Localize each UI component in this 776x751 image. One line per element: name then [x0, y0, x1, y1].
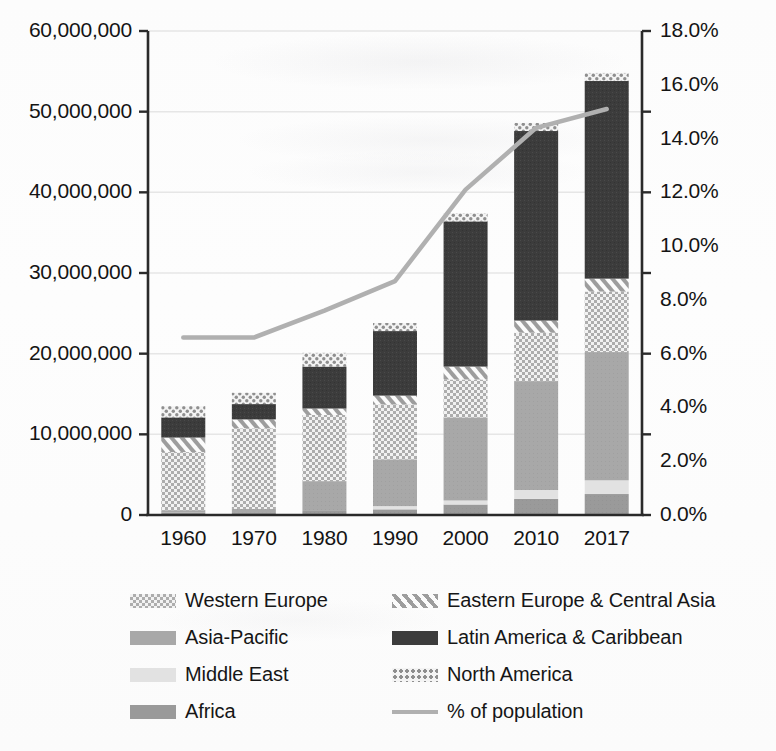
bar-segment-middle-east	[444, 500, 488, 504]
bar-1960	[161, 406, 205, 515]
legend-swatch-solid-gray-icon	[130, 631, 176, 645]
bar-segment-north-america	[373, 323, 417, 331]
legend-item-middle-east[interactable]: Middle East	[130, 663, 392, 686]
y2-axis-tick-label: 8.0%	[660, 287, 707, 311]
legend-label: North America	[447, 663, 572, 686]
bar-1970	[232, 393, 276, 515]
bar-segment-asia-pacific	[161, 510, 205, 512]
bar-segment-western-europe	[232, 428, 276, 509]
bar-segment-eastern-europe-central-asia	[161, 438, 205, 453]
x-axis-tick-label-2017: 2017	[562, 526, 652, 550]
y2-axis-tick-label: 14.0%	[660, 126, 719, 150]
bar-segment-north-america	[585, 73, 629, 81]
bar-segment-eastern-europe-central-asia	[444, 367, 488, 380]
y2-axis-tick-label: 0.0%	[660, 502, 707, 526]
legend-label: Middle East	[185, 663, 288, 686]
bar-segment-latin-america-caribbean	[373, 331, 417, 396]
bar-segment-latin-america-caribbean	[444, 221, 488, 366]
bar-segment-western-europe	[161, 452, 205, 510]
bar-segment-middle-east	[585, 480, 629, 494]
bar-segment-north-america	[232, 393, 276, 404]
legend-item-africa[interactable]: Africa	[130, 700, 392, 723]
bar-segment-eastern-europe-central-asia	[373, 396, 417, 405]
bar-segment-asia-pacific	[232, 509, 276, 512]
bar-segment-eastern-europe-central-asia	[585, 279, 629, 292]
y2-axis-tick-label: 10.0%	[660, 233, 719, 257]
bar-2000	[444, 213, 488, 515]
bar-1990	[373, 323, 417, 515]
legend-swatch-diagonal-stripe-icon	[392, 594, 438, 608]
bar-segment-western-europe	[444, 379, 488, 417]
bar-segment-eastern-europe-central-asia	[302, 409, 346, 415]
legend-swatch-solid-medium-gray-icon	[130, 705, 176, 719]
y-axis-tick-label: 60,000,000	[0, 18, 132, 42]
y2-axis-tick-label: 18.0%	[660, 18, 719, 42]
y2-axis-tick-label: 2.0%	[660, 448, 707, 472]
bar-segment-western-europe	[585, 292, 629, 353]
bar-segment-latin-america-caribbean	[161, 417, 205, 437]
bar-segment-middle-east	[373, 506, 417, 509]
legend-item-of-population[interactable]: % of population	[392, 700, 770, 723]
bar-segment-north-america	[302, 353, 346, 367]
legend-swatch-dotted-icon	[392, 668, 438, 682]
bar-series-group	[161, 73, 628, 515]
bar-1980	[302, 353, 346, 515]
legend-item-western-europe[interactable]: Western Europe	[130, 589, 392, 612]
bar-segment-africa	[444, 505, 488, 515]
bar-segment-africa	[514, 499, 558, 515]
legend-item-latin-america-caribbean[interactable]: Latin America & Caribbean	[392, 626, 770, 649]
bar-segment-asia-pacific	[302, 481, 346, 511]
legend-swatch-solid-dark-icon	[392, 631, 438, 645]
legend-item-north-america[interactable]: North America	[392, 663, 770, 686]
y2-axis-tick-label: 4.0%	[660, 394, 707, 418]
y-axis-tick-label: 30,000,000	[0, 260, 132, 284]
bar-segment-eastern-europe-central-asia	[232, 419, 276, 428]
bar-segment-asia-pacific	[444, 417, 488, 500]
bar-segment-western-europe	[373, 404, 417, 459]
legend-item-asia-pacific[interactable]: Asia-Pacific	[130, 626, 392, 649]
bar-segment-north-america	[444, 213, 488, 221]
bar-segment-latin-america-caribbean	[514, 131, 558, 321]
bar-segment-eastern-europe-central-asia	[514, 321, 558, 333]
legend-label: Western Europe	[185, 589, 328, 612]
y-axis-tick-label: 40,000,000	[0, 179, 132, 203]
bar-segment-western-europe	[302, 415, 346, 481]
legend-label: % of population	[447, 700, 583, 723]
y2-axis-tick-label: 6.0%	[660, 341, 707, 365]
y-axis-tick-label: 0	[0, 502, 132, 526]
legend-label: Eastern Europe & Central Asia	[447, 589, 715, 612]
bar-2010	[514, 123, 558, 515]
legend-swatch-line-icon	[392, 710, 438, 714]
y-axis-tick-label: 20,000,000	[0, 341, 132, 365]
legend-label: Latin America & Caribbean	[447, 626, 682, 649]
y2-axis-tick-label: 12.0%	[660, 179, 719, 203]
legend-item-eastern-europe-central-asia[interactable]: Eastern Europe & Central Asia	[392, 589, 770, 612]
bar-segment-latin-america-caribbean	[302, 367, 346, 409]
y2-axis-tick-label: 16.0%	[660, 72, 719, 96]
bar-2017	[585, 73, 629, 515]
bar-segment-western-europe	[514, 333, 558, 381]
y-axis-tick-label: 50,000,000	[0, 99, 132, 123]
bar-segment-middle-east	[514, 490, 558, 499]
legend-label: Asia-Pacific	[185, 626, 288, 649]
population-migration-stacked-bar-chart: 010,000,00020,000,00030,000,00040,000,00…	[0, 0, 776, 751]
y-axis-tick-label: 10,000,000	[0, 421, 132, 445]
bar-segment-asia-pacific	[514, 381, 558, 490]
chart-legend: Western EuropeEastern Europe & Central A…	[130, 582, 770, 732]
legend-swatch-solid-light-gray-icon	[130, 668, 176, 682]
bar-segment-asia-pacific	[585, 352, 629, 480]
bar-segment-latin-america-caribbean	[232, 404, 276, 419]
legend-label: Africa	[185, 700, 236, 723]
bar-segment-africa	[585, 494, 629, 515]
bar-segment-north-america	[161, 406, 205, 417]
legend-swatch-checkerboard-icon	[130, 594, 176, 608]
bar-segment-asia-pacific	[373, 459, 417, 506]
